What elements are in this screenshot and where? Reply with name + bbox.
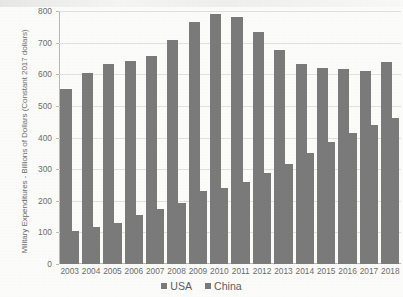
y-axis-tick-label: 700	[26, 38, 52, 48]
bar-group	[231, 11, 249, 264]
bar-group	[167, 11, 185, 264]
x-axis-tick-label: 2003	[59, 266, 80, 276]
x-axis-tick-label: 2014	[294, 266, 315, 276]
bar-china-2014[interactable]	[303, 153, 314, 264]
y-axis-tick-label: 100	[26, 227, 52, 237]
x-axis-tick-label: 2012	[251, 266, 272, 276]
legend-label: China	[214, 281, 242, 292]
bar-china-2017[interactable]	[367, 125, 378, 264]
bar-china-2008[interactable]	[175, 203, 186, 264]
y-axis-tick	[56, 201, 59, 202]
x-axis-tick-label: 2010	[209, 266, 230, 276]
x-axis-tick-label: 2017	[358, 266, 379, 276]
bar-china-2006[interactable]	[132, 215, 143, 264]
bar-group	[82, 11, 100, 264]
y-axis-tick	[56, 232, 59, 233]
x-axis-tick-label: 2007	[145, 266, 166, 276]
bar-group	[103, 11, 121, 264]
y-axis-tick-label: 0	[26, 259, 52, 269]
bar-china-2010[interactable]	[218, 188, 229, 264]
x-axis-tick-label: 2015	[316, 266, 337, 276]
bar-china-2011[interactable]	[239, 182, 250, 264]
chart-legend: USAChina	[0, 281, 403, 292]
bar-china-2004[interactable]	[90, 227, 101, 264]
y-axis-tick-label: 300	[26, 164, 52, 174]
x-axis-tick-label: 2006	[123, 266, 144, 276]
y-axis-tick-label: 200	[26, 196, 52, 206]
x-axis-tick-label: 2011	[230, 266, 251, 276]
bar-china-2009[interactable]	[196, 191, 207, 264]
x-axis-tick-label: 2004	[80, 266, 101, 276]
bar-china-2005[interactable]	[111, 223, 122, 264]
x-axis-tick-label: 2008	[166, 266, 187, 276]
x-axis-tick-label: 2013	[273, 266, 294, 276]
legend-item-usa[interactable]: USA	[161, 281, 192, 292]
x-axis-tick-label: 2005	[102, 266, 123, 276]
bar-group	[317, 11, 335, 264]
y-axis-tick-label: 800	[26, 6, 52, 16]
plot-area	[59, 11, 401, 264]
y-axis-tick	[56, 11, 59, 12]
legend-swatch-icon	[161, 283, 167, 289]
y-axis-tick	[56, 43, 59, 44]
y-axis-tick	[56, 169, 59, 170]
bar-china-2015[interactable]	[325, 142, 336, 264]
bar-china-2016[interactable]	[346, 133, 357, 264]
y-axis-tick-labels: 0100200300400500600700800	[26, 0, 56, 297]
bar-china-2013[interactable]	[282, 164, 293, 264]
y-axis-tick	[56, 264, 59, 265]
x-axis-tick-label: 2016	[337, 266, 358, 276]
y-axis-tick-label: 400	[26, 133, 52, 143]
bar-group	[189, 11, 207, 264]
legend-label: USA	[170, 281, 192, 292]
x-axis-tick-labels: 2003200420052006200720082009201020112012…	[59, 266, 401, 279]
y-axis-tick	[56, 106, 59, 107]
x-axis-tick-label: 2018	[380, 266, 401, 276]
bar-china-2007[interactable]	[154, 209, 165, 264]
y-axis-tick-label: 500	[26, 101, 52, 111]
bar-group	[360, 11, 378, 264]
bar-group	[274, 11, 292, 264]
y-axis-tick	[56, 138, 59, 139]
y-axis-tick	[56, 74, 59, 75]
bar-group	[381, 11, 399, 264]
bar-china-2018[interactable]	[389, 118, 400, 264]
bar-group	[296, 11, 314, 264]
bar-china-2003[interactable]	[68, 231, 79, 264]
legend-item-china[interactable]: China	[205, 281, 242, 292]
bar-group	[146, 11, 164, 264]
y-axis-tick-label: 600	[26, 69, 52, 79]
bar-group	[338, 11, 356, 264]
x-axis-tick-label: 2009	[187, 266, 208, 276]
bar-group	[253, 11, 271, 264]
bar-chart: Military Expenditures - Billions of Doll…	[0, 0, 403, 297]
bar-china-2012[interactable]	[261, 173, 272, 264]
bar-group	[125, 11, 143, 264]
bar-group	[60, 11, 78, 264]
legend-swatch-icon	[205, 283, 211, 289]
bar-group	[210, 11, 228, 264]
